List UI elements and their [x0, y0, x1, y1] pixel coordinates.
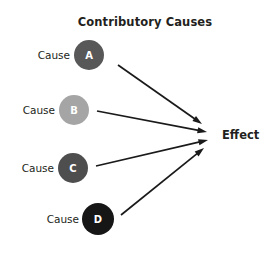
cause-c-letter: C	[69, 163, 76, 174]
cause-node-b[interactable]: Cause B	[23, 95, 89, 125]
cause-a-label: Cause	[38, 49, 70, 61]
arrow-d-line	[121, 153, 198, 215]
cause-b-letter: B	[70, 105, 78, 116]
contributory-causes-diagram: Contributory Causes Cause	[0, 0, 266, 256]
diagram-title: Contributory Causes	[78, 15, 212, 29]
arrow-c-head	[198, 139, 208, 145]
arrow-cause-b-to-effect	[97, 111, 207, 133]
arrow-cause-a-to-effect	[118, 65, 202, 124]
arrow-a-head	[192, 116, 202, 124]
cause-node-d[interactable]: Cause D	[47, 203, 114, 235]
arrow-cause-c-to-effect	[96, 139, 208, 166]
cause-node-c[interactable]: Cause C	[22, 153, 88, 183]
cause-nodes-group: Cause A Cause B Cause C Cause D	[22, 40, 114, 235]
arrow-a-line	[118, 65, 196, 120]
cause-node-a[interactable]: Cause A	[38, 40, 104, 70]
arrow-b-line	[97, 111, 200, 131]
cause-c-label: Cause	[22, 162, 54, 174]
cause-d-letter: D	[94, 214, 102, 225]
arrow-b-head	[197, 127, 207, 133]
cause-a-letter: A	[85, 50, 93, 61]
effect-label: Effect	[222, 128, 260, 142]
arrows-group	[96, 65, 208, 215]
diagram-canvas: Contributory Causes Cause	[0, 0, 266, 256]
cause-b-label: Cause	[23, 104, 55, 116]
cause-d-label: Cause	[47, 213, 79, 225]
